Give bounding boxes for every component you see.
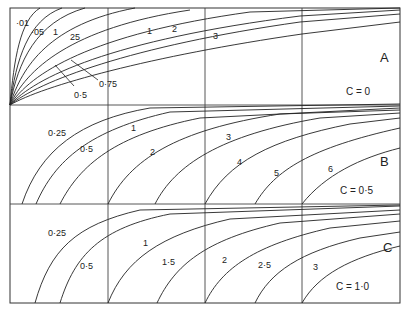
label-c-1: 1	[143, 238, 148, 248]
label-a-005: ·05	[31, 27, 44, 37]
label-b-2: 2	[150, 147, 155, 157]
label-b-6: 6	[328, 164, 333, 174]
label-c-025: 0·25	[48, 228, 66, 238]
condition-c: C = 1·0	[336, 281, 370, 292]
label-a-05: 0·5	[74, 90, 87, 100]
panel-label-a: A	[380, 50, 389, 65]
label-c-2: 2	[222, 255, 227, 265]
label-a-2: 2	[172, 24, 177, 34]
label-b-4: 4	[237, 157, 242, 167]
label-a-01: 1	[53, 27, 58, 37]
panel-label-b: B	[380, 154, 389, 169]
condition-b: C = 0·5	[340, 185, 374, 196]
label-a-025: 25	[70, 32, 80, 42]
label-b-025: 0·25	[48, 128, 66, 138]
label-c-15: 1·5	[162, 257, 175, 267]
condition-a: C = 0	[346, 86, 371, 97]
label-a-075: 0·75	[99, 79, 117, 89]
panel-c-labels: 0·25 0·5 1 1·5 2 2·5 3 C C = 1·0	[48, 228, 392, 292]
label-a-001: ·01	[16, 18, 29, 28]
label-b-05: 0·5	[80, 144, 93, 154]
label-b-3: 3	[226, 132, 231, 142]
label-b-1: 1	[131, 123, 136, 133]
panel-label-c: C	[383, 240, 392, 255]
label-c-25: 2·5	[258, 260, 271, 270]
label-a-1: 1	[147, 26, 152, 36]
label-a-3: 3	[213, 31, 218, 41]
label-c-3: 3	[313, 262, 318, 272]
label-c-05: 0·5	[80, 261, 93, 271]
label-b-5: 5	[274, 168, 279, 178]
family-of-curves-figure: ·01 ·05 1 25 0·5 0·75 1 2 3 A C = 0 0·25…	[0, 0, 406, 311]
